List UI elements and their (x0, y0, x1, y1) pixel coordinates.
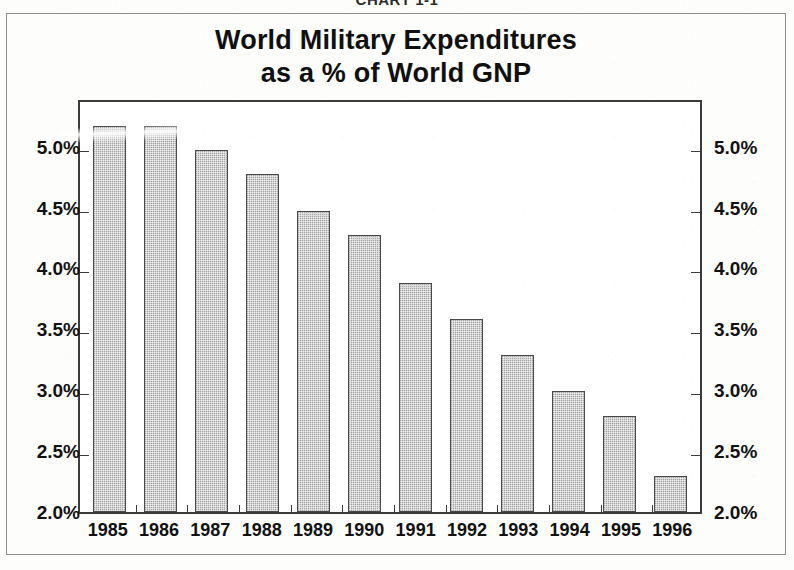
bar-slot (645, 102, 696, 512)
chart-title-line-2: as a % of World GNP (6, 57, 786, 90)
y-axis-label-right-4.5%: 4.5% (714, 198, 757, 220)
bar-1995[interactable] (603, 416, 637, 512)
y-axis-label-left-2.0%: 2.0% (37, 502, 80, 524)
x-axis-label-1994: 1994 (544, 520, 595, 541)
bar-slot (135, 102, 186, 512)
bar-1991[interactable] (399, 283, 433, 512)
x-tick-9 (549, 505, 550, 512)
bar-series (80, 102, 700, 512)
x-tick-10 (601, 505, 602, 512)
x-axis-label-1992: 1992 (441, 520, 492, 541)
bar-1994[interactable] (552, 391, 586, 512)
y-axis-label-right-3.5%: 3.5% (714, 319, 757, 341)
bar-1996[interactable] (654, 476, 688, 512)
x-tick-4 (291, 505, 292, 512)
x-tick-2 (187, 505, 188, 512)
y-tick-left-3.5% (80, 333, 89, 334)
y-tick-right-2.5% (691, 455, 700, 456)
y-axis-label-right-2.0%: 2.0% (714, 502, 757, 524)
bar-slot (441, 102, 492, 512)
bar-slot (288, 102, 339, 512)
y-tick-right-3.0% (691, 394, 700, 395)
y-tick-right-4.5% (691, 212, 700, 213)
x-axis-label-1996: 1996 (647, 520, 698, 541)
y-axis-label-left-4.0%: 4.0% (37, 258, 80, 280)
y-axis-label-right-2.5%: 2.5% (714, 441, 757, 463)
x-axis-labels: 1985198619871988198919901991199219931994… (78, 520, 702, 541)
x-tick-7 (446, 505, 447, 512)
x-axis-label-1988: 1988 (236, 520, 287, 541)
y-axis-label-right-4.0%: 4.0% (714, 258, 757, 280)
bar-1985[interactable] (93, 126, 127, 512)
chart-title-block: World Military Expenditures as a % of Wo… (6, 24, 786, 90)
y-tick-left-3.0% (80, 394, 89, 395)
bar-1992[interactable] (450, 319, 484, 512)
bar-slot (237, 102, 288, 512)
x-axis-label-1993: 1993 (493, 520, 544, 541)
x-axis-label-1989: 1989 (287, 520, 338, 541)
chart-title-line-1: World Military Expenditures (6, 24, 786, 57)
chart-number-heading: CHART 1-1 (0, 0, 794, 8)
y-axis-label-right-5.0%: 5.0% (714, 137, 757, 159)
y-axis-label-left-3.0%: 3.0% (37, 380, 80, 402)
plot-inner (80, 102, 700, 512)
bar-1989[interactable] (297, 211, 331, 512)
y-axis-label-left-5.0%: 5.0% (37, 137, 80, 159)
y-tick-left-4.5% (80, 212, 89, 213)
bar-slot (594, 102, 645, 512)
bar-slot (492, 102, 543, 512)
y-tick-right-5.0% (691, 151, 700, 152)
bar-1990[interactable] (348, 235, 382, 512)
x-tick-6 (394, 505, 395, 512)
x-tick-5 (342, 505, 343, 512)
x-tick-11 (652, 505, 653, 512)
bar-slot (390, 102, 441, 512)
bar-slot (84, 102, 135, 512)
bar-1987[interactable] (195, 150, 229, 512)
x-axis-label-1987: 1987 (185, 520, 236, 541)
bar-slot (543, 102, 594, 512)
bar-slot (186, 102, 237, 512)
y-tick-left-5.0% (80, 151, 89, 152)
x-axis-label-1985: 1985 (82, 520, 133, 541)
bar-1988[interactable] (246, 174, 280, 512)
x-tick-1 (136, 505, 137, 512)
x-tick-8 (497, 505, 498, 512)
y-tick-right-4.0% (691, 272, 700, 273)
bar-1993[interactable] (501, 355, 535, 512)
x-axis-label-1995: 1995 (595, 520, 646, 541)
y-tick-right-3.5% (691, 333, 700, 334)
bar-slot (339, 102, 390, 512)
bar-1986[interactable] (144, 126, 178, 512)
y-axis-label-left-2.5%: 2.5% (37, 441, 80, 463)
x-axis-label-1990: 1990 (339, 520, 390, 541)
y-axis-label-right-3.0%: 3.0% (714, 380, 757, 402)
y-tick-left-2.5% (80, 455, 89, 456)
plot-area (78, 100, 702, 514)
x-axis-label-1986: 1986 (133, 520, 184, 541)
y-axis-label-left-4.5%: 4.5% (37, 198, 80, 220)
x-axis-label-1991: 1991 (390, 520, 441, 541)
chart-page: CHART 1-1 World Military Expenditures as… (0, 0, 794, 570)
x-tick-3 (239, 505, 240, 512)
y-tick-left-4.0% (80, 272, 89, 273)
y-axis-label-left-3.5%: 3.5% (37, 319, 80, 341)
